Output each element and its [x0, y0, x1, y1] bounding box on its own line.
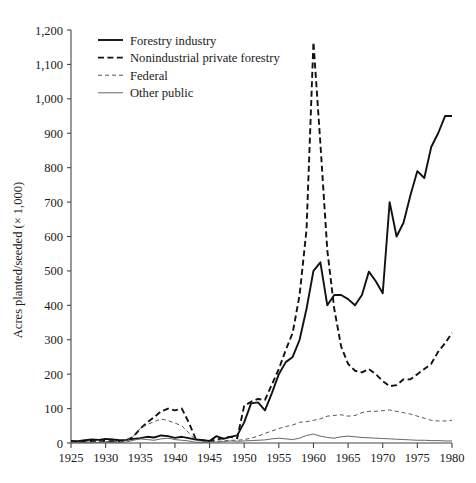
x-tick-label: 1965	[336, 451, 361, 465]
y-axis: 01002003004005006007008009001,0001,1001,…	[35, 24, 71, 451]
y-tick-label: 0	[57, 437, 63, 451]
y-tick-label: 400	[44, 299, 63, 313]
y-tick-label: 1,100	[35, 58, 63, 72]
y-tick-label: 500	[44, 264, 63, 278]
series-line-federal	[71, 410, 452, 442]
y-tick-label: 700	[44, 196, 63, 210]
y-tick-label: 800	[44, 161, 63, 175]
legend-label-forestry-industry: Forestry industry	[130, 34, 217, 48]
legend-label-nonindustrial-private-forestry: Nonindustrial private forestry	[130, 51, 280, 65]
x-axis: 1925193019351940194519501955196019651970…	[59, 443, 465, 465]
y-tick-label: 1,200	[35, 24, 63, 38]
series-lines	[71, 42, 452, 443]
series-line-forestry-industry	[71, 116, 452, 441]
y-tick-label: 300	[44, 333, 63, 347]
x-tick-label: 1950	[232, 451, 257, 465]
y-tick-label: 900	[44, 127, 63, 141]
x-tick-label: 1945	[197, 451, 222, 465]
legend-label-other-public: Other public	[130, 86, 194, 100]
chart-figure: 01002003004005006007008009001,0001,1001,…	[0, 0, 476, 483]
x-tick-label: 1980	[440, 451, 465, 465]
x-tick-label: 1970	[370, 451, 395, 465]
y-tick-label: 1,000	[35, 92, 63, 106]
x-tick-label: 1930	[93, 451, 118, 465]
x-tick-label: 1925	[59, 451, 84, 465]
x-tick-label: 1975	[405, 451, 430, 465]
line-chart: 01002003004005006007008009001,0001,1001,…	[0, 0, 476, 483]
x-tick-label: 1955	[266, 451, 291, 465]
x-tick-label: 1940	[162, 451, 187, 465]
legend-label-federal: Federal	[130, 69, 168, 83]
x-tick-label: 1960	[301, 451, 326, 465]
y-tick-label: 200	[44, 368, 63, 382]
y-axis-title: Acres planted/seeded (× 1,000)	[11, 182, 25, 338]
x-tick-label: 1935	[128, 451, 153, 465]
y-axis-title-text: Acres planted/seeded (× 1,000)	[11, 182, 25, 338]
y-tick-label: 100	[44, 402, 63, 416]
y-tick-label: 600	[44, 230, 63, 244]
chart-legend: Forestry industryNonindustrial private f…	[98, 34, 280, 101]
series-line-nonindustrial-private-forestry	[71, 42, 452, 442]
